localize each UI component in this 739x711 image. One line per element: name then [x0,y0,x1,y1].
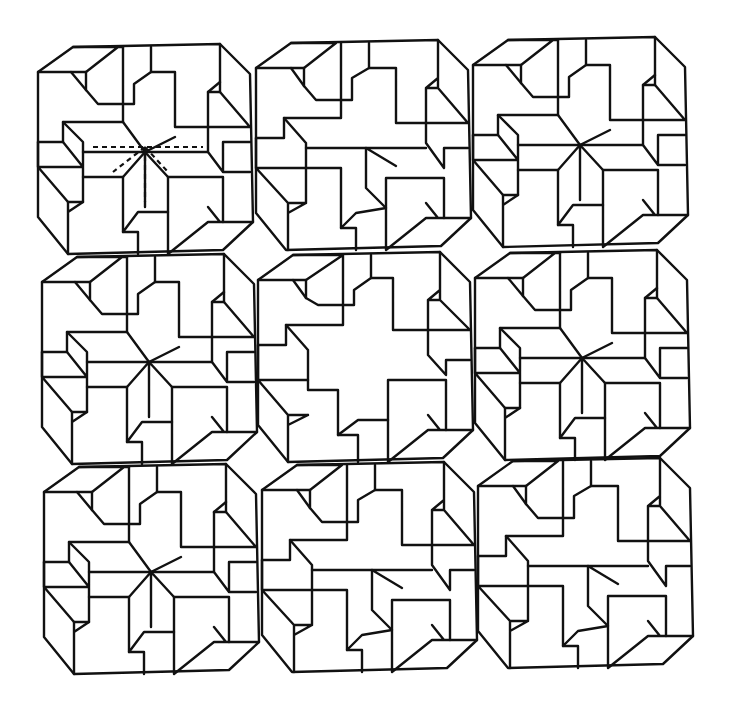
puzzle-panel-r0-c0 [38,44,253,254]
puzzle-grid-svg [0,0,739,711]
puzzle-panel-r2-c0 [44,464,259,674]
puzzle-figure [0,0,739,711]
puzzle-panel-r0-c2 [473,37,688,247]
puzzle-panel-r1-c2 [475,250,690,460]
puzzle-panel-r2-c1 [262,462,477,672]
puzzle-panel-r0-c1 [256,40,471,250]
puzzle-panel-r1-c1 [258,252,473,462]
puzzle-panel-r2-c2 [478,458,693,668]
puzzle-panel-r1-c0 [42,254,257,464]
